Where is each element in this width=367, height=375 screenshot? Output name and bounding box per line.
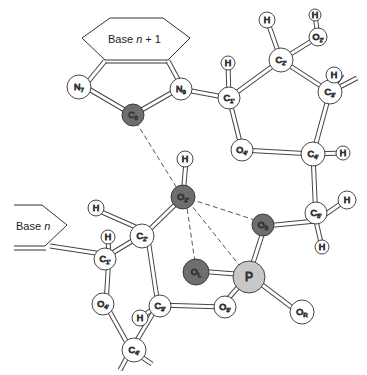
atom-o2p-lower: O2' — [171, 185, 195, 209]
svg-text:H: H — [225, 58, 232, 68]
atom-o2p-upper: O2' — [309, 28, 327, 46]
atom-c3p-upper: C3' — [318, 80, 342, 104]
svg-text:H: H — [93, 203, 100, 213]
svg-text:P: P — [245, 270, 253, 284]
svg-text:H: H — [105, 232, 112, 242]
atom-ol: OL — [183, 259, 209, 285]
base-n-plus-1: Base n + 1 — [82, 18, 190, 63]
svg-text:H: H — [137, 313, 144, 323]
atom-n9: N9 — [170, 78, 192, 100]
atom-h-c3p-lower: H — [132, 310, 148, 326]
atom-h-c1p-upper: H — [221, 56, 235, 70]
base-upper-prefix: Base — [108, 33, 136, 45]
atom-o4p-lower: O4' — [92, 293, 114, 315]
atom-o5: O5 — [252, 214, 274, 236]
atom-h-o2p-upper: H — [309, 9, 321, 21]
svg-text:H: H — [182, 154, 189, 164]
base-lower-prefix: Base — [16, 220, 44, 232]
atom-c4p-upper: C4' — [301, 142, 325, 166]
atom-o4p-upper: O4' — [231, 139, 253, 161]
atom-h-c4p-upper: H — [336, 146, 350, 160]
svg-text:H: H — [264, 15, 271, 25]
atom-c8: C8 — [122, 104, 144, 126]
svg-text:H: H — [319, 242, 326, 252]
atom-or: OR — [290, 300, 314, 324]
atom-o3p: O3' — [214, 296, 236, 318]
atom-h-c3p-upper: H — [326, 67, 342, 83]
base-lower-italic: n — [44, 220, 50, 232]
atom-n7: N7 — [67, 75, 91, 99]
atom-c1p-lower: C1' — [94, 248, 116, 270]
svg-text:H: H — [331, 70, 338, 80]
atom-c3p-lower: C3' — [149, 295, 171, 317]
atom-h-o2p-lower: H — [177, 151, 193, 167]
atom-p: P — [233, 261, 265, 293]
base-n: Base n — [14, 205, 67, 250]
atom-c5p: C5' — [305, 202, 327, 224]
atom-h-c2p-upper: H — [259, 12, 275, 28]
svg-text:H: H — [312, 10, 319, 20]
atom-h-c2p-lower: H — [88, 200, 104, 216]
svg-text:H: H — [344, 195, 351, 205]
atom-c1p-upper: C1' — [218, 87, 240, 109]
atom-h-c5p-b: H — [315, 240, 329, 254]
atom-c4p-lower: C4' — [122, 338, 146, 362]
svg-text:Base n + 1: Base n + 1 — [108, 33, 161, 45]
atom-h-c1p-lower: H — [101, 230, 115, 244]
svg-text:Base n: Base n — [16, 220, 50, 232]
atom-c2p-lower: C2' — [130, 224, 154, 248]
base-upper-suffix: + 1 — [142, 33, 161, 45]
molecular-diagram: Base n + 1 Base n — [0, 0, 367, 375]
svg-text:H: H — [340, 148, 347, 158]
atom-c2p-upper: C2' — [269, 48, 293, 72]
atom-h-c5p-a: H — [338, 191, 356, 209]
